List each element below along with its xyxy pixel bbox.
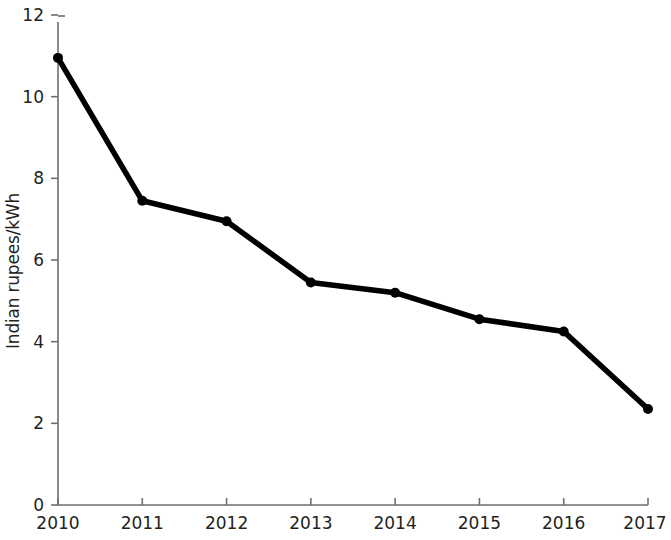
data-point-marker (306, 277, 316, 287)
x-tick-label: 2013 (289, 513, 332, 533)
data-point-marker (474, 314, 484, 324)
data-point-marker (559, 326, 569, 336)
axes (51, 15, 648, 505)
axis-lines (58, 22, 648, 505)
y-tick-label: 4 (10, 332, 44, 352)
series-markers (53, 53, 653, 414)
y-tick-label: 8 (10, 168, 44, 188)
series-line-indian-rupees-per-kwh (58, 58, 648, 409)
x-tick-label: 2016 (542, 513, 585, 533)
data-series-group (53, 53, 653, 414)
y-tick-label: 0 (10, 495, 44, 515)
data-point-marker (53, 53, 63, 63)
x-tick-label: 2014 (373, 513, 416, 533)
x-tick-label: 2012 (205, 513, 248, 533)
y-tick-label: 6 (10, 250, 44, 270)
plot-area (0, 0, 671, 540)
x-tick-label: 2017 (623, 513, 666, 533)
y-tick-label: 10 (10, 87, 44, 107)
data-point-marker (137, 196, 147, 206)
x-tick-label: 2015 (458, 513, 501, 533)
x-axis-tick-marks (58, 498, 648, 505)
line-chart: Indian rupees/kWh 024681012 201020112012… (0, 0, 671, 540)
data-point-marker (222, 216, 232, 226)
x-tick-label: 2010 (36, 513, 79, 533)
data-point-marker (390, 288, 400, 298)
data-point-marker (643, 404, 653, 414)
y-tick-label: 2 (10, 413, 44, 433)
x-tick-label: 2011 (121, 513, 164, 533)
y-tick-label: 12 (10, 5, 44, 25)
